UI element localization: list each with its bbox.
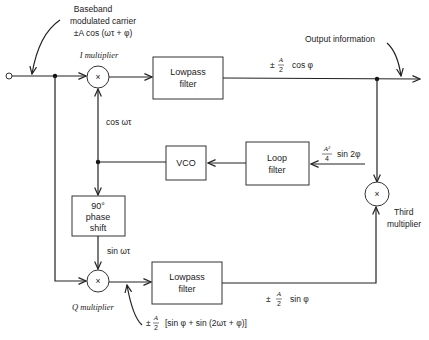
costas-loop-diagram: Baseband modulated carrier ±A cos (ωτ + … (0, 0, 429, 340)
svg-text:A: A (153, 314, 159, 322)
svg-text:phase: phase (86, 212, 111, 222)
input-terminal-icon (6, 73, 12, 79)
i-multiplier-label: I multiplier (79, 50, 119, 60)
svg-text:90°: 90° (91, 201, 105, 211)
q-mixer-signal-label: ± A 2 [sin φ + sin (2ωτ + φ)] (146, 314, 247, 331)
svg-text:±A cos (ωτ + φ): ±A cos (ωτ + φ) (74, 28, 133, 38)
error-signal-label: A² 4 sin 2φ (322, 145, 361, 162)
svg-text:±: ± (270, 60, 275, 70)
svg-text:[sin φ + sin (2ωτ + φ)]: [sin φ + sin (2ωτ + φ)] (165, 318, 247, 328)
svg-text:2: 2 (279, 66, 283, 73)
svg-text:Lowpass: Lowpass (170, 67, 206, 77)
loop-filter (246, 142, 309, 185)
third-multiplier-label-2: multiplier (387, 219, 421, 229)
i-output-signal-label: ± A 2 cos φ (270, 56, 314, 73)
cos-ref-label: cos ωτ (106, 117, 132, 127)
input-label: Baseband modulated carrier ±A cos (ωτ + … (70, 4, 136, 38)
svg-text:2: 2 (154, 324, 158, 331)
q-output-signal-label: ± A 2 sin φ (266, 290, 309, 307)
q-multiplier-label: Q multiplier (72, 302, 114, 312)
svg-text:filter: filter (179, 79, 196, 89)
q-mixer-pointer-arrow (127, 285, 142, 325)
svg-text:×: × (96, 276, 101, 286)
svg-text:VCO: VCO (176, 158, 196, 168)
svg-text:2: 2 (277, 300, 281, 307)
output-label: Output information (305, 34, 375, 44)
svg-text:modulated carrier: modulated carrier (70, 16, 136, 26)
i-multiplier-symbol: × (96, 72, 101, 82)
svg-text:filter: filter (178, 284, 195, 294)
svg-text:sin φ: sin φ (290, 294, 309, 304)
svg-text:cos φ: cos φ (292, 60, 314, 70)
svg-text:Baseband: Baseband (74, 4, 113, 14)
svg-text:±: ± (266, 294, 271, 304)
input-pointer-arrow (32, 20, 60, 74)
lowpass-filter-top (153, 57, 223, 99)
svg-text:A²: A² (323, 145, 331, 153)
svg-text:shift: shift (90, 223, 107, 233)
i-output-line (223, 78, 420, 79)
output-pointer-arrow (387, 43, 401, 76)
svg-text:×: × (375, 189, 380, 199)
svg-text:4: 4 (325, 155, 329, 162)
svg-text:filter: filter (268, 165, 285, 175)
svg-text:Lowpass: Lowpass (169, 272, 205, 282)
svg-text:±: ± (146, 318, 151, 328)
svg-text:Loop: Loop (267, 153, 287, 163)
svg-text:A: A (276, 290, 282, 298)
svg-text:A: A (278, 56, 284, 64)
q-output-line (222, 207, 376, 283)
input-to-q-line (55, 76, 86, 281)
sin-ref-label: sin ωτ (107, 246, 131, 256)
third-multiplier-label-1: Third (394, 207, 414, 217)
svg-text:sin 2φ: sin 2φ (337, 149, 361, 159)
lowpass-filter-bottom (152, 262, 222, 304)
